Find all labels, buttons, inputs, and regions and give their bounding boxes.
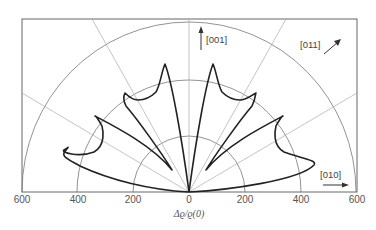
tick-label: 200	[237, 194, 254, 205]
arrow-diagonal-icon	[324, 42, 338, 54]
tick-label: 600	[14, 194, 31, 205]
x-axis-label: Δϱ/ϱ(0)	[173, 208, 205, 220]
tick-label: 200	[125, 194, 142, 205]
direction-001: [001]	[199, 26, 228, 50]
tick-label: 0	[186, 194, 192, 205]
tick-label: 600	[349, 194, 366, 205]
direction-label: [001]	[206, 34, 227, 45]
tick-label: 400	[70, 194, 87, 205]
direction-011: [011]	[300, 39, 341, 54]
spoke-150	[22, 93, 189, 192]
tick-label: 400	[293, 194, 310, 205]
arrow-up-icon	[199, 26, 204, 33]
polar-chart: 600 400 200 0 200 400 600 Δϱ/ϱ(0) [001] …	[0, 0, 376, 230]
direction-label: [010]	[320, 169, 341, 180]
axis-ticks: 600 400 200 0 200 400 600	[14, 194, 366, 205]
arrow-right-icon	[342, 183, 349, 188]
direction-label: [011]	[300, 39, 320, 50]
direction-010: [010]	[320, 169, 349, 188]
